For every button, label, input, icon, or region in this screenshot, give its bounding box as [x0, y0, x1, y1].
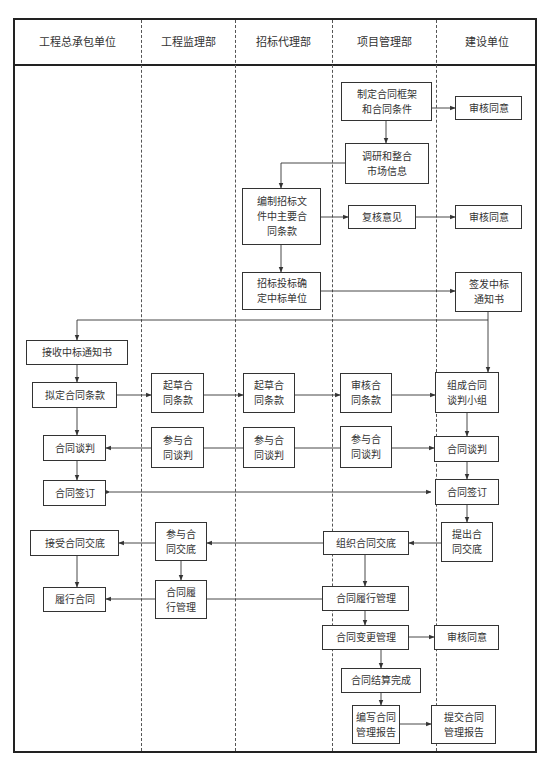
- node-submit-report: 提交合同 管理报告: [431, 705, 496, 744]
- node-framework: 制定合同框架 和合同条件: [341, 82, 432, 121]
- node-draft-supervision: 起草合 同条款: [151, 373, 204, 413]
- node-bidding: 招标投标确 定中标单位: [242, 272, 321, 310]
- node-settlement: 合同结算完成: [341, 668, 421, 693]
- node-research: 调研和整合 市场信息: [345, 143, 429, 184]
- lane-divider: [235, 20, 236, 751]
- node-approve-1: 审核同意: [455, 96, 522, 120]
- node-approve-3: 审核同意: [434, 625, 499, 650]
- lane-title-project-mgmt: 项目管理部: [332, 18, 436, 64]
- node-negotiation-owner: 合同谈判: [434, 436, 499, 462]
- node-approve-2: 审核同意: [455, 205, 522, 229]
- node-join-briefing: 参与合 同交底: [155, 522, 207, 561]
- node-perform-contract: 履行合同: [43, 587, 106, 612]
- node-write-report: 编写合同 管理报告: [352, 705, 400, 744]
- node-negotiation-contractor: 合同谈判: [43, 435, 106, 461]
- node-team: 组成合同 谈判小组: [435, 372, 499, 413]
- lane-title-owner: 建设单位: [436, 18, 537, 64]
- node-receive-notice: 接收中标通知书: [26, 340, 128, 365]
- node-draft-terms: 拟定合同条款: [32, 382, 117, 408]
- node-propose-briefing: 提出合 同交底: [441, 522, 493, 562]
- node-join-nego-supervision: 参与合 同谈判: [151, 427, 204, 468]
- node-join-nego-pm: 参与合 同谈判: [340, 426, 392, 468]
- node-organize-briefing: 组织合同交底: [323, 531, 409, 555]
- lane-title-bidding-agent: 招标代理部: [235, 18, 332, 64]
- node-draft-agent: 起草合 同条款: [243, 373, 295, 413]
- node-perf-mgmt-pm: 合同履行管理: [322, 586, 409, 611]
- node-bid-docs: 编制招标文 件中主要合 同条款: [242, 188, 321, 245]
- node-sign-owner: 合同签订: [435, 479, 499, 505]
- node-perf-mgmt-supervision: 合同履 行管理: [155, 580, 207, 619]
- node-join-nego-agent: 参与合 同谈判: [243, 427, 295, 468]
- node-sign-contractor: 合同签订: [43, 480, 106, 506]
- node-review: 复核意见: [348, 205, 416, 229]
- node-audit-terms: 审核合 同条款: [340, 373, 392, 413]
- lane-title-contractor: 工程总承包单位: [13, 18, 141, 64]
- node-change-mgmt: 合同变更管理: [322, 625, 409, 650]
- node-issue-notice: 签发中标 通知书: [455, 272, 522, 312]
- node-accept-briefing: 接受合同交底: [30, 530, 119, 556]
- lane-title-supervision: 工程监理部: [141, 18, 235, 64]
- lane-divider: [141, 20, 142, 751]
- header-separator: [13, 64, 537, 66]
